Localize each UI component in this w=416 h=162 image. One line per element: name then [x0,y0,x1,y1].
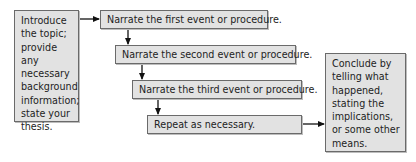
step-4-text: Repeat as necessary. [154,118,255,131]
step-2-text: Narrate the second event or procedure. [122,48,312,61]
intro-box: Introduce the topic; provide any necessa… [14,10,79,122]
step-3-text: Narrate the third event or procedure. [139,83,318,96]
step-3-box: Narrate the third event or procedure. [132,80,302,99]
step-4-box: Repeat as necessary. [147,115,302,134]
step-1-text: Narrate the first event or procedure. [107,13,282,26]
step-1-box: Narrate the first event or procedure. [100,10,268,29]
step-2-box: Narrate the second event or procedure. [115,45,296,64]
intro-text: Introduce the topic; provide any necessa… [21,15,80,132]
conclusion-box: Conclude by telling what happened, stati… [325,53,406,152]
conclusion-text: Conclude by telling what happened, stati… [332,58,400,149]
